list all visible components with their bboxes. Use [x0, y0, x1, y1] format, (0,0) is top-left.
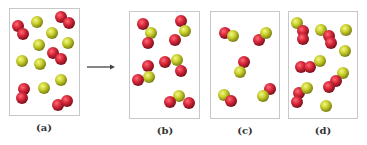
sulfur-atom [62, 37, 74, 49]
reaction-arrow-icon [87, 65, 115, 70]
sulfur-atom [314, 55, 326, 67]
oxygen-atom [142, 37, 154, 49]
oxygen-atom [297, 33, 309, 45]
panel-b-atoms [132, 15, 195, 109]
oxygen-atom [183, 97, 195, 109]
oxygen-atom [325, 37, 337, 49]
sulfur-atom [171, 54, 183, 66]
oxygen-atom [169, 34, 181, 46]
oxygen-atom [142, 60, 154, 72]
sulfur-atom [340, 24, 352, 36]
sulfur-atom [16, 55, 28, 67]
sulfur-atom [234, 66, 246, 78]
sulfur-atom [33, 39, 45, 51]
oxygen-atom [55, 53, 67, 65]
sulfur-atom [179, 25, 191, 37]
sulfur-atom [260, 27, 272, 39]
sulfur-atom [31, 16, 43, 28]
reaction-diagram: (a) (b) (c) (d) [0, 0, 367, 145]
panel-d-atoms [291, 17, 352, 112]
oxygen-atom [159, 56, 171, 68]
panel-c-label: (c) [237, 125, 253, 136]
oxygen-atom [17, 28, 29, 40]
sulfur-atom [227, 30, 239, 42]
sulfur-atom [46, 27, 58, 39]
oxygen-atom [304, 61, 316, 73]
sulfur-atom [34, 58, 46, 70]
sulfur-atom [301, 82, 313, 94]
sulfur-atom [257, 90, 269, 102]
oxygen-atom [63, 17, 75, 29]
oxygen-atom [132, 74, 144, 86]
oxygen-atom [225, 95, 237, 107]
sulfur-atom [320, 100, 332, 112]
sulfur-atom [55, 74, 67, 86]
panel-a-label: (a) [36, 122, 52, 133]
sulfur-atom [143, 71, 155, 83]
panel-c-atoms [218, 27, 276, 107]
oxygen-atom [164, 96, 176, 108]
panel-a-atoms [12, 11, 75, 111]
oxygen-atom [323, 81, 335, 93]
panel-b-label: (b) [157, 125, 173, 136]
oxygen-atom [137, 18, 149, 30]
sulfur-atom [339, 45, 351, 57]
panel-d-label: (d) [315, 125, 331, 136]
oxygen-atom [175, 65, 187, 77]
sulfur-atom [38, 82, 50, 94]
oxygen-atom [16, 92, 28, 104]
oxygen-atom [291, 96, 303, 108]
oxygen-atom [61, 95, 73, 107]
